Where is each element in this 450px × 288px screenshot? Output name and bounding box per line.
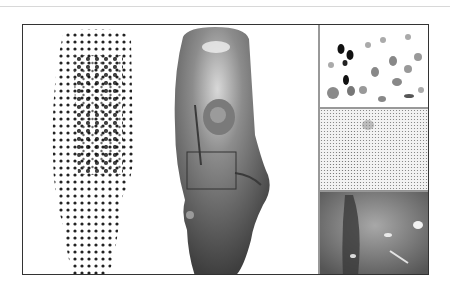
figure-frame	[22, 24, 429, 275]
figure-svg	[23, 25, 429, 275]
closeup-shaded-panel	[320, 192, 429, 275]
top-rule	[0, 6, 450, 7]
closeup-pattern-panel	[320, 109, 429, 191]
dotted-statue-panel	[53, 29, 134, 275]
shaded-statue-panel	[175, 27, 270, 275]
closeup-dots-panel	[320, 25, 429, 108]
